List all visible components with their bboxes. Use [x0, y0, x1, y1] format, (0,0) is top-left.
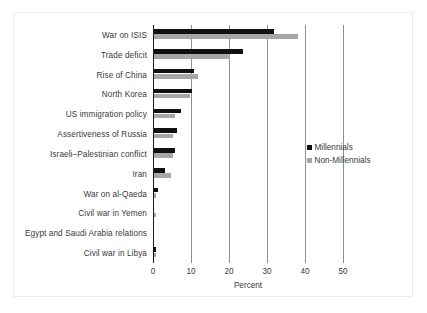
legend-swatch-icon	[307, 145, 312, 150]
bar-row: Trade deficit	[153, 45, 343, 65]
legend-label: Non-Millennials	[315, 156, 371, 165]
category-label: Civil war in Libya	[84, 249, 147, 258]
legend-swatch-icon	[307, 158, 312, 163]
x-tick-label: 10	[186, 267, 195, 276]
bar-millennials	[154, 247, 156, 252]
category-label: Civil war in Yemen	[78, 209, 147, 218]
category-label: Iran	[132, 169, 147, 178]
category-label: War on al-Qaeda	[83, 189, 147, 198]
chart-legend: MillennialsNon-Millennials	[307, 141, 407, 167]
category-label: Trade deficit	[101, 50, 147, 59]
bar-row: Civil war in Yemen	[153, 204, 343, 224]
bar-millennials	[154, 109, 181, 114]
x-axis-title: Percent	[234, 281, 262, 290]
category-label: Israeli–Palestinian conflict	[50, 149, 147, 158]
bar-row: War on al-Qaeda	[153, 184, 343, 204]
bar-millennials	[154, 89, 192, 94]
legend-label: Millennials	[315, 143, 353, 152]
bar-millennials	[154, 69, 194, 74]
bar-non-millennials	[154, 134, 173, 139]
legend-item[interactable]: Millennials	[307, 141, 407, 154]
x-tick-label: 20	[224, 267, 233, 276]
bar-millennials	[154, 29, 274, 34]
category-label: US immigration policy	[66, 110, 147, 119]
x-tick-label: 0	[151, 267, 156, 276]
bar-millennials	[154, 128, 177, 133]
bar-non-millennials	[154, 114, 175, 119]
bar-millennials	[154, 49, 243, 54]
bar-millennials	[154, 148, 175, 153]
x-tick-label: 50	[338, 267, 347, 276]
category-label: War on ISIS	[102, 30, 147, 39]
legend-item[interactable]: Non-Millennials	[307, 154, 407, 167]
category-label: Assertiveness of Russia	[57, 130, 147, 139]
x-tick-label: 40	[300, 267, 309, 276]
bar-millennials	[154, 188, 158, 193]
bar-non-millennials	[154, 153, 173, 158]
bar-row: Rise of China	[153, 65, 343, 85]
bar-non-millennials	[154, 54, 230, 59]
category-label: North Korea	[102, 90, 147, 99]
bar-non-millennials	[154, 94, 190, 99]
bar-non-millennials	[154, 193, 156, 198]
bar-non-millennials	[154, 74, 198, 79]
bar-row: Civil war in Libya	[153, 243, 343, 263]
bar-millennials	[154, 168, 165, 173]
bar-non-millennials	[154, 213, 156, 218]
chart-figure: War on ISISTrade deficitRise of ChinaNor…	[13, 12, 413, 297]
bar-non-millennials	[154, 253, 156, 258]
bar-non-millennials	[154, 34, 298, 39]
category-label: Egypt and Saudi Arabia relations	[25, 229, 147, 238]
bar-non-millennials	[154, 173, 171, 178]
bar-row: North Korea	[153, 85, 343, 105]
bar-row: US immigration policy	[153, 104, 343, 124]
bar-row: War on ISIS	[153, 25, 343, 45]
bar-row: Egypt and Saudi Arabia relations	[153, 223, 343, 243]
category-label: Rise of China	[97, 70, 147, 79]
x-tick-label: 30	[262, 267, 271, 276]
